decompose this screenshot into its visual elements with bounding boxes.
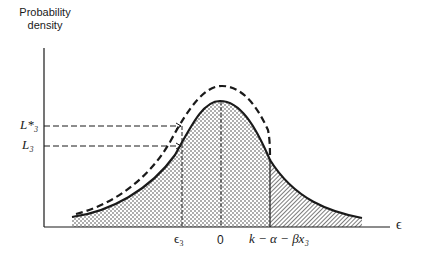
- probability-density-diagram: Probability density L*₃ L₃ ϵ₃ 0 k − α − …: [0, 0, 431, 254]
- y-axis-label-line1: Probability: [12, 6, 78, 19]
- diagram-canvas: [0, 0, 431, 254]
- x-axis-label: ϵ: [396, 219, 402, 231]
- zero-tick-label: 0: [217, 234, 224, 246]
- y-axis-label: Probability density: [12, 6, 78, 32]
- threshold-tick-label: k − α − βx₃: [249, 233, 309, 245]
- l-3-label: L₃: [22, 139, 34, 151]
- l-star-3-label: L*₃: [20, 119, 38, 131]
- y-axis-label-line2: density: [12, 19, 78, 32]
- epsilon3-tick-label: ϵ₃: [174, 233, 184, 245]
